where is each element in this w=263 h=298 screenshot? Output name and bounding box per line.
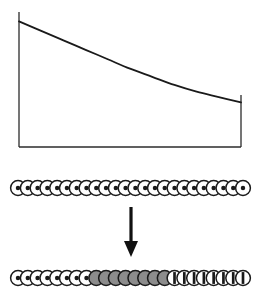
circle-core-dot xyxy=(45,276,49,280)
circle-core-dot xyxy=(65,186,69,190)
circle-core-dot xyxy=(182,186,186,190)
circle-core-dot xyxy=(172,186,176,190)
decay-curve-path xyxy=(19,21,241,102)
circle-core-dot xyxy=(74,276,78,280)
circle-core-dot xyxy=(84,186,88,190)
circle-bullseye xyxy=(236,181,251,196)
circle-core-dot xyxy=(45,186,49,190)
circle-center-bar xyxy=(183,272,186,284)
circle-core-dot xyxy=(192,186,196,190)
chart-svg xyxy=(0,0,263,162)
circle-center-bar xyxy=(232,272,235,284)
circle-core-dot xyxy=(221,186,225,190)
circle-core-dot xyxy=(65,276,69,280)
circle-core-dot xyxy=(74,186,78,190)
bottom-circle-row xyxy=(0,263,263,293)
arrow-head xyxy=(124,241,138,257)
figure-root xyxy=(0,0,263,298)
circle-core-dot xyxy=(94,186,98,190)
top-circle-row xyxy=(0,174,263,202)
circle-core-dot xyxy=(114,186,118,190)
circle-center-bar xyxy=(212,272,215,284)
circle-core-dot xyxy=(163,186,167,190)
circle-core-dot xyxy=(16,186,20,190)
circle-center-bar xyxy=(193,272,196,284)
transition-arrow xyxy=(0,205,263,261)
top-circle-row-svg xyxy=(0,174,263,202)
circle-core-dot xyxy=(133,186,137,190)
circle-center-bar xyxy=(242,272,245,284)
circle-core-dot xyxy=(35,186,39,190)
circle-core-dot xyxy=(202,186,206,190)
down-arrow-icon xyxy=(124,207,138,257)
circle-barred xyxy=(236,271,251,286)
circle-core-dot xyxy=(35,276,39,280)
circle-core-dot xyxy=(16,276,20,280)
bottom-circle-row-svg xyxy=(0,263,263,293)
circle-core-dot xyxy=(26,186,30,190)
circle-center-bar xyxy=(203,272,206,284)
circle-core-dot xyxy=(241,186,245,190)
circle-core-dot xyxy=(143,186,147,190)
circle-core-dot xyxy=(211,186,215,190)
decay-curve-chart xyxy=(0,0,263,162)
circle-core-dot xyxy=(26,276,30,280)
circle-core-dot xyxy=(231,186,235,190)
circle-core-dot xyxy=(84,276,88,280)
arrow-svg xyxy=(0,205,263,261)
circle-core-dot xyxy=(55,276,59,280)
chart-axes xyxy=(19,12,241,147)
circle-core-dot xyxy=(123,186,127,190)
circle-core-dot xyxy=(153,186,157,190)
circle-core-dot xyxy=(55,186,59,190)
circle-center-bar xyxy=(222,272,225,284)
circle-center-bar xyxy=(173,272,176,284)
circle-core-dot xyxy=(104,186,108,190)
